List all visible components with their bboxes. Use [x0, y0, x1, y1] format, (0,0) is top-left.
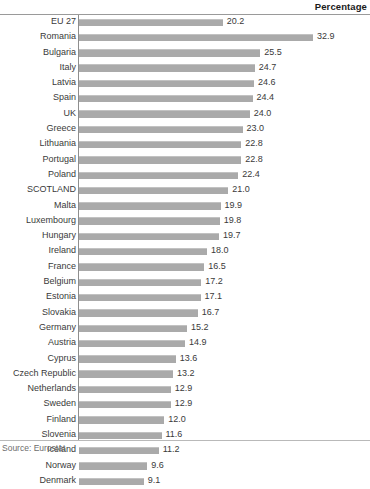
bar-value-label: 23.0 [247, 123, 265, 134]
bar [79, 156, 241, 163]
bar-row: Latvia24.6 [0, 76, 370, 91]
bar-value-label: 24.4 [257, 92, 275, 103]
bar-value-label: 22.4 [242, 169, 260, 180]
category-label-estonia: Estonia [0, 291, 76, 302]
bar-row: SCOTLAND21.0 [0, 183, 370, 198]
bar [79, 248, 207, 255]
bar [79, 401, 171, 408]
bar-container: 24.0 [79, 110, 250, 117]
category-label-luxembourg: Luxembourg [0, 215, 76, 226]
bar-container: 11.6 [79, 432, 162, 439]
bar [79, 447, 159, 454]
bar-value-label: 25.5 [264, 47, 282, 58]
bar-row: Estonia17.1 [0, 290, 370, 305]
category-label-cyprus: Cyprus [0, 353, 76, 364]
bar-container: 9.6 [79, 462, 147, 469]
category-label-norway: Norway [0, 460, 76, 471]
bar-container: 21.0 [79, 187, 228, 194]
bar-value-label: 12.9 [175, 398, 193, 409]
category-label-malta: Malta [0, 200, 76, 211]
bar [79, 309, 198, 316]
bar-container: 13.6 [79, 355, 176, 362]
bar-container: 22.8 [79, 141, 241, 148]
category-label-belgium: Belgium [0, 276, 76, 287]
bar-value-label: 19.7 [223, 230, 241, 241]
bar [79, 217, 220, 224]
bar-row: Poland22.4 [0, 168, 370, 183]
bar-value-label: 11.2 [163, 444, 180, 455]
bar-row: Luxembourg19.8 [0, 214, 370, 229]
bar-value-label: 9.1 [148, 475, 161, 486]
bar-value-label: 13.2 [177, 368, 195, 379]
bar-row: Germany15.2 [0, 321, 370, 336]
category-label-denmark: Denmark [0, 475, 76, 486]
bar [79, 386, 171, 393]
bar-container: 16.5 [79, 263, 204, 270]
bar-value-label: 13.6 [180, 353, 198, 364]
bar-row: EU 2720.2 [0, 15, 370, 30]
bar-row: Malta19.9 [0, 199, 370, 214]
bar-container: 18.0 [79, 248, 207, 255]
bar-row: Italy24.7 [0, 61, 370, 76]
bar-container: 25.5 [79, 49, 260, 56]
bar-value-label: 19.8 [224, 215, 242, 226]
bar [79, 141, 241, 148]
bar-row: Belgium17.2 [0, 275, 370, 290]
bar-row: Spain24.4 [0, 91, 370, 106]
bar-value-label: 15.2 [191, 322, 209, 333]
bar-container: 12.9 [79, 386, 171, 393]
bar-container: 16.7 [79, 309, 198, 316]
category-label-spain: Spain [0, 92, 76, 103]
bar-container: 17.2 [79, 279, 201, 286]
category-label-portugal: Portugal [0, 154, 76, 165]
bar-row: France16.5 [0, 260, 370, 275]
bar [79, 478, 144, 485]
bar-container: 12.0 [79, 416, 164, 423]
category-label-slovakia: Slovakia [0, 307, 76, 318]
bar-value-label: 18.0 [211, 245, 229, 256]
bar-row: Bulgaria25.5 [0, 46, 370, 61]
bar-row: Romania32.9 [0, 30, 370, 45]
category-label-austria: Austria [0, 337, 76, 348]
bar [79, 187, 228, 194]
category-label-scotland: SCOTLAND [0, 184, 76, 195]
category-label-netherlands: Netherlands [0, 383, 76, 394]
bar [79, 64, 255, 71]
bar-container: 19.8 [79, 217, 220, 224]
bar-value-label: 24.0 [254, 108, 272, 119]
category-label-finland: Finland [0, 414, 76, 425]
category-label-slovenia: Slovenia [0, 429, 76, 440]
bar [79, 233, 219, 240]
bar [79, 126, 243, 133]
chart-header: Percentage [0, 0, 370, 16]
bar-row: Norway9.6 [0, 459, 370, 474]
bar-value-label: 22.8 [245, 154, 263, 165]
plot-bottom-divider [0, 440, 370, 441]
bar [79, 19, 223, 26]
bar [79, 432, 162, 439]
bar-row: Netherlands12.9 [0, 382, 370, 397]
bar [79, 49, 260, 56]
bar-row: Hungary19.7 [0, 229, 370, 244]
bar [79, 416, 164, 423]
bar-value-label: 14.9 [189, 337, 207, 348]
bar [79, 279, 201, 286]
bar-value-label: 22.8 [245, 138, 263, 149]
category-label-ireland: Ireland [0, 245, 76, 256]
bar-value-label: 17.1 [205, 291, 223, 302]
bar-container: 23.0 [79, 126, 243, 133]
bar-container: 22.4 [79, 172, 238, 179]
bar-container: 11.2 [79, 447, 159, 454]
bar-row: Austria14.9 [0, 336, 370, 351]
bar [79, 370, 173, 377]
bar-value-label: 16.5 [208, 261, 226, 272]
bar-container: 9.1 [79, 478, 144, 485]
bar-value-label: 24.7 [259, 62, 277, 73]
bar-container: 22.8 [79, 156, 241, 163]
category-label-sweden: Sweden [0, 398, 76, 409]
bar-value-label: 24.6 [258, 77, 276, 88]
bar-container: 19.7 [79, 233, 219, 240]
bar-value-label: 17.2 [205, 276, 223, 287]
category-label-germany: Germany [0, 322, 76, 333]
bar-container: 24.6 [79, 80, 254, 87]
